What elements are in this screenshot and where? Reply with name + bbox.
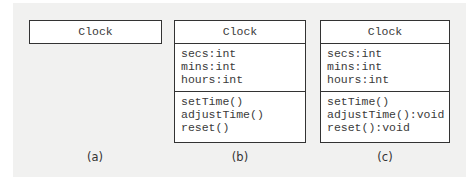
attribute: mins:int (181, 60, 299, 73)
operation: adjustTime() (181, 108, 299, 121)
attribute: secs:int (181, 47, 299, 60)
operation: setTime() (181, 95, 299, 108)
operations-section: setTime() adjustTime():void reset():void (321, 91, 449, 136)
operation: setTime() (327, 95, 443, 108)
uml-class-a: Clock (29, 20, 162, 44)
attribute: hours:int (181, 73, 299, 86)
uml-class-b: Clock secs:int mins:int hours:int setTim… (174, 20, 306, 143)
operation: reset() (181, 121, 299, 134)
caption-c: (c) (365, 150, 405, 164)
caption-a: (a) (75, 150, 115, 164)
operations-section: setTime() adjustTime() reset() (175, 91, 305, 136)
uml-class-c: Clock secs:int mins:int hours:int setTim… (320, 20, 450, 143)
attribute: mins:int (327, 60, 443, 73)
class-name: Clock (30, 21, 161, 43)
attribute: secs:int (327, 47, 443, 60)
class-name: Clock (321, 21, 449, 43)
operation: reset():void (327, 121, 443, 134)
operation: adjustTime():void (327, 108, 443, 121)
caption-b: (b) (220, 150, 260, 164)
class-name: Clock (175, 21, 305, 43)
attributes-section: secs:int mins:int hours:int (175, 43, 305, 91)
attributes-section: secs:int mins:int hours:int (321, 43, 449, 91)
attribute: hours:int (327, 73, 443, 86)
